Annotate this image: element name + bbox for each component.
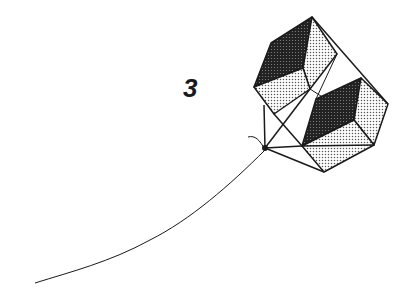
box-kite (254, 17, 388, 172)
spar-horizontal (265, 146, 302, 148)
spar-left-vertical (264, 105, 265, 148)
spar-bottom-right (302, 145, 374, 146)
kite-illustration (0, 0, 411, 304)
kite-string (35, 150, 265, 283)
bridle-knot (263, 146, 267, 150)
